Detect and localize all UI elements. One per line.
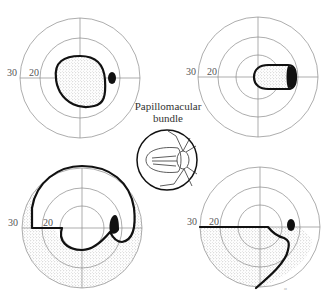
caption-line-1: Papillomacular (135, 100, 202, 112)
visual-field-top-right: 30 20 (186, 17, 318, 137)
caption-line-2: bundle (153, 112, 183, 124)
tick-label-20: 20 (207, 66, 217, 77)
tick-label-30: 30 (8, 217, 18, 228)
tick-label-30: 30 (186, 66, 196, 77)
blind-spot (108, 72, 116, 84)
visual-field-bottom-right: 30 20 ᵃᵗ (187, 167, 320, 292)
visual-field-top-left: 30 20 (7, 18, 140, 138)
blind-spot (287, 219, 295, 231)
visual-field-diagram: 30 20 30 20 Papillomacular bundle (0, 0, 327, 298)
tick-label-20: 20 (209, 216, 219, 227)
inferior-defect-fill (200, 227, 312, 290)
visual-field-bottom-left: 30 20 (8, 166, 142, 288)
tick-label-20: 20 (29, 67, 39, 78)
artist-signature: ᵃᵗ (284, 286, 288, 292)
tick-label-20: 20 (43, 217, 53, 228)
central-scotoma-fill (56, 56, 105, 107)
tick-label-30: 30 (187, 216, 197, 227)
papillomacular-bundle-illustration: Papillomacular bundle (135, 100, 202, 190)
tick-label-30: 30 (7, 67, 17, 78)
